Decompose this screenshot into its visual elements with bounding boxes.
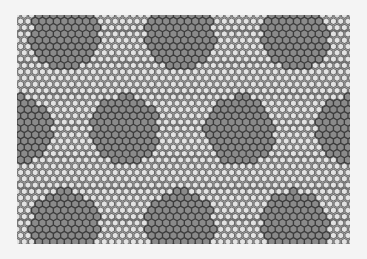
honeycomb-lattice bbox=[6, 5, 366, 253]
moire-hexagonal-lattice-image bbox=[0, 0, 367, 259]
